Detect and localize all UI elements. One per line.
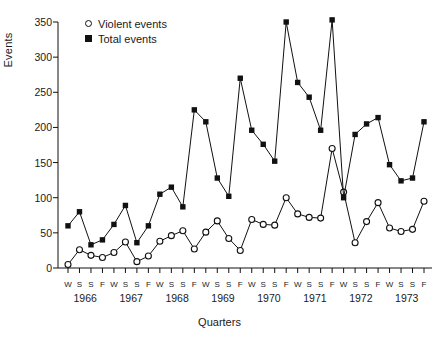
series-total-events [65, 17, 426, 247]
y-axis-ticks [53, 22, 58, 268]
series-violent-events [65, 146, 427, 268]
chart-axes [58, 22, 432, 268]
plot-area [0, 0, 439, 338]
x-axis-ticks [68, 268, 424, 273]
events-line-chart: Events Quarters 050100150200250300350 WS… [0, 0, 439, 338]
